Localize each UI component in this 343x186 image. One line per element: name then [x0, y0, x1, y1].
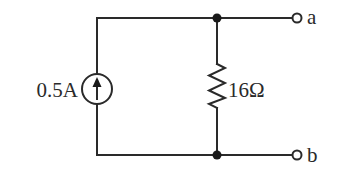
terminal-a	[293, 14, 302, 23]
source-label: 0.5A	[37, 78, 79, 102]
junction-node-top	[213, 14, 222, 23]
resistor-label: 16Ω	[228, 78, 265, 102]
terminal-a-label: a	[307, 5, 317, 29]
terminal-b	[293, 151, 302, 160]
current-source	[82, 74, 112, 104]
terminal-b-label: b	[307, 143, 318, 167]
junction-node-bottom	[213, 151, 222, 160]
resistor-zigzag	[209, 64, 225, 108]
circuit-diagram: 0.5A 16Ω a b	[0, 0, 343, 186]
